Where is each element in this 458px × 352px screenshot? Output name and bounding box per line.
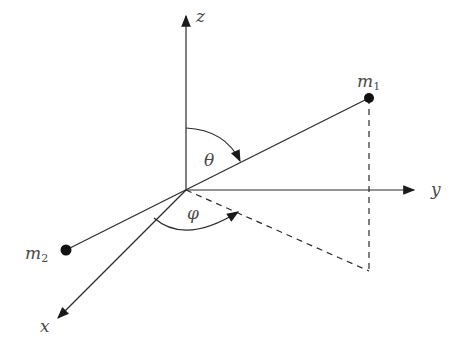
mass-m2-dot: [61, 245, 72, 256]
mass-m2-label: m2: [25, 245, 48, 264]
y-axis-label: y: [431, 181, 441, 198]
mass-m1-label: m1: [357, 73, 380, 92]
phi-label: φ: [187, 205, 199, 222]
projection-xy-dashed: [186, 190, 369, 271]
coordinate-diagram: [0, 0, 458, 352]
mass-m1-dot: [364, 93, 374, 103]
x-axis-label: x: [40, 318, 50, 335]
z-axis-label: z: [196, 8, 205, 25]
theta-label: θ: [204, 152, 214, 169]
separation-vector: [66, 98, 369, 250]
x-axis: [58, 190, 186, 318]
